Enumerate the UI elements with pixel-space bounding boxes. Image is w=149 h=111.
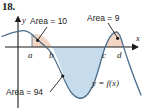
x-tick-label-d: d <box>117 51 122 60</box>
problem-number: 18. <box>2 1 15 12</box>
area-middle-annotation: Area = 94 <box>6 88 43 97</box>
y-axis-arrowhead <box>15 16 21 23</box>
leader-dot-area-left <box>36 39 39 42</box>
leader-dot-area-middle <box>61 74 64 77</box>
region-area-left-fill <box>32 34 52 47</box>
x-tick-label-b: b <box>49 51 54 60</box>
area-left-annotation: Area = 10 <box>30 17 67 26</box>
area-right-annotation: Area = 9 <box>87 14 119 23</box>
x-tick-label-c: c <box>102 51 106 60</box>
leader-dot-area-right <box>116 37 119 40</box>
function-equation-label: y = f(x) <box>92 79 119 88</box>
x-axis-label: x <box>136 34 140 43</box>
figure-container: 18. y x Area = 10 Area = 9 Area = 94 a b… <box>0 0 149 111</box>
x-tick-label-a: a <box>28 51 33 60</box>
y-axis-label: y <box>22 16 26 25</box>
leader-line-area-middle <box>50 77 62 92</box>
x-axis-arrowhead <box>132 44 139 51</box>
